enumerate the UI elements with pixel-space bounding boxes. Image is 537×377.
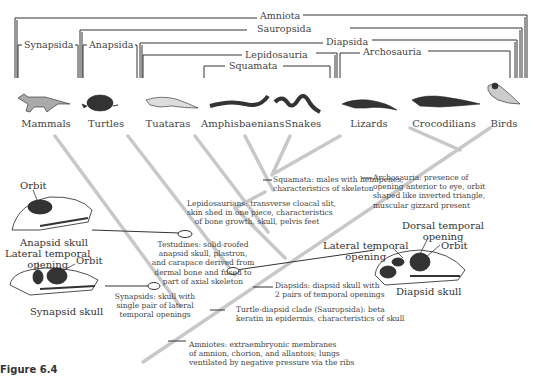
- note-testudines: Testudines: solid-roofed anapsid skull, …: [150, 240, 256, 286]
- diapsid-lateral-opening-label: Lateral temporal opening: [323, 240, 408, 262]
- taxon-crocodilians: Crocodilians: [409, 118, 479, 129]
- diapsid-orbit-label: Orbit: [441, 240, 468, 251]
- clade-label-amniota: Amniota: [258, 10, 302, 21]
- clade-label-sauropsida: Sauropsida: [255, 23, 313, 34]
- note-amniotes: Amniotes: extraembryonic membranes of am…: [189, 340, 354, 368]
- anapsid-skull-caption: Anapsid skull: [20, 237, 88, 248]
- taxon-tuataras: Tuataras: [143, 118, 193, 129]
- clade-label-synapsida: Synapsida: [22, 39, 75, 50]
- clade-label-lepidosauria: Lepidosauria: [243, 49, 310, 60]
- clade-label-anapsida: Anapsida: [87, 39, 135, 50]
- figure-label: Figure 6.4: [0, 364, 57, 375]
- note-diapsids: Diapsids: diapsid skull with 2 pairs of …: [275, 281, 385, 299]
- synapsid-orbit-label: Orbit: [76, 255, 103, 266]
- synapsid-skull-caption: Synapsid skull: [30, 306, 103, 317]
- diapsid-dorsal-opening-label: Dorsal temporal opening: [402, 220, 484, 242]
- note-synapsids: Synapsids: skull with single pair of lat…: [110, 292, 200, 320]
- clade-label-squamata: Squamata: [227, 60, 280, 71]
- taxon-birds: Birds: [486, 118, 522, 129]
- anapsid-orbit-label: Orbit: [20, 180, 47, 191]
- taxon-snakes: Snakes: [282, 118, 324, 129]
- taxon-amphisbaenians: Amphisbaenians: [201, 118, 281, 129]
- taxon-lizards: Lizards: [348, 118, 390, 129]
- animal-illustrations: [18, 83, 520, 112]
- note-turtle-diapsid: Turtle-diapsid clade (Sauropsida): beta …: [236, 305, 404, 323]
- note-lepidosaurians: Lepidosaurians: transverse cloacal slit,…: [187, 199, 327, 227]
- taxon-turtles: Turtles: [86, 118, 126, 129]
- taxon-mammals: Mammals: [16, 118, 76, 129]
- clade-label-archosauria: Archosauria: [361, 46, 423, 57]
- note-archosauria: Archosauria: presence of opening anterio…: [373, 173, 485, 210]
- diapsid-skull-caption: Diapsid skull: [396, 286, 462, 297]
